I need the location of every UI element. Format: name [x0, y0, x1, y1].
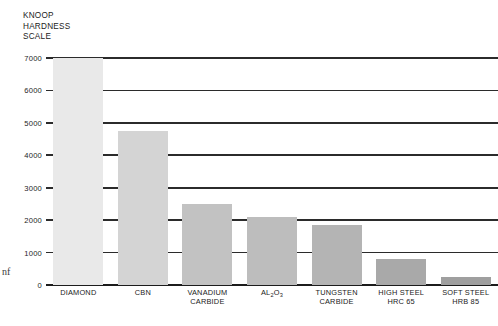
plot-area: 01000200030004000500060007000 — [46, 58, 498, 285]
bar — [53, 58, 103, 285]
y-tick-label: 0 — [2, 281, 42, 290]
bar — [376, 259, 426, 285]
y-tick-label: 5000 — [2, 118, 42, 127]
knoop-hardness-bar-chart: KNOOP HARDNESS SCALE 0100020003000400050… — [0, 0, 498, 326]
y-tick-label: 2000 — [2, 216, 42, 225]
x-axis-labels: DIAMONDCBNVANADIUM CARBIDEAL2O3TUNGSTEN … — [46, 288, 498, 322]
y-tick-label: 4000 — [2, 151, 42, 160]
bars-layer — [46, 58, 498, 285]
bar — [118, 131, 168, 285]
chart-title: KNOOP HARDNESS SCALE — [23, 11, 71, 43]
bar — [312, 225, 362, 285]
y-tick-label: 6000 — [2, 86, 42, 95]
x-tick-label: SOFT STEEL HRB 85 — [433, 288, 498, 307]
x-tick-label: CBN — [111, 288, 176, 297]
x-tick-label: DIAMOND — [46, 288, 111, 297]
bar — [182, 204, 232, 285]
bar — [441, 277, 491, 285]
x-tick-label: HIGH STEEL HRC 65 — [369, 288, 434, 307]
x-tick-label: TUNGSTEN CARBIDE — [304, 288, 369, 307]
y-tick-label: 3000 — [2, 183, 42, 192]
x-tick-label: VANADIUM CARBIDE — [175, 288, 240, 307]
edge-artifact-text: nf — [2, 266, 10, 277]
y-tick-label: 1000 — [2, 248, 42, 257]
bar — [247, 217, 297, 285]
x-tick-label: AL2O3 — [240, 288, 305, 297]
y-tick-label: 7000 — [2, 54, 42, 63]
